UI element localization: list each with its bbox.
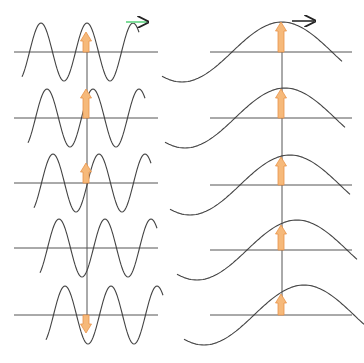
snapshot-row-2 — [14, 89, 158, 147]
right-column-long-wave — [162, 21, 364, 345]
wave-diagram — [0, 0, 364, 363]
left-column-short-wave — [14, 22, 163, 344]
displacement-arrow-up-icon — [276, 89, 287, 118]
snapshot-row-1 — [14, 22, 158, 81]
displacement-arrow-up-icon — [276, 294, 287, 315]
displacement-arrow-up-icon — [276, 225, 287, 250]
wave-diagram-canvas — [0, 0, 364, 363]
snapshot-row-3 — [14, 154, 158, 212]
snapshot-row-2 — [165, 88, 352, 148]
snapshot-row-1 — [162, 21, 352, 82]
snapshot-row-5 — [14, 286, 163, 344]
displacement-arrow-up-icon — [81, 32, 92, 52]
displacement-arrow-up-icon — [276, 22, 287, 52]
snapshot-row-5 — [184, 285, 364, 345]
snapshot-row-3 — [170, 155, 352, 215]
displacement-arrow-down-icon — [81, 315, 92, 333]
snapshot-row-4 — [177, 220, 357, 280]
snapshot-row-4 — [14, 219, 158, 277]
displacement-arrow-up-icon — [276, 157, 287, 185]
